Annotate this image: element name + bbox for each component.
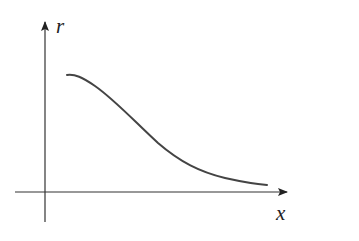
- function-diagram: r x: [0, 0, 359, 241]
- x-axis-label: x: [275, 201, 286, 225]
- y-axis-label: r: [56, 14, 65, 38]
- decay-curve: [67, 75, 267, 185]
